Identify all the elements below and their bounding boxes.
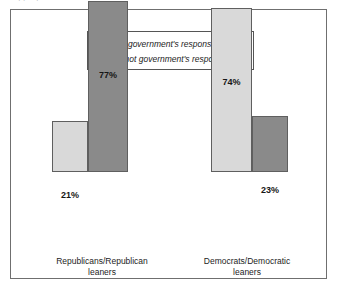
chart-figure: by party ID Yes, government's responsibi… — [0, 0, 338, 286]
bar-republicans-no — [88, 1, 128, 172]
bar-value-democrats-no: 23% — [252, 185, 288, 195]
clipped-caption-text: by party ID — [14, 0, 49, 1]
bar-value-republicans-yes: 21% — [52, 190, 88, 200]
bar-democrats-no — [252, 116, 288, 172]
bar-democrats-yes — [211, 8, 252, 172]
bar-value-republicans-no: 77% — [88, 70, 128, 80]
plot-area: 21% 77% 74% 23% — [18, 78, 320, 250]
bar-value-democrats-yes: 74% — [211, 77, 252, 87]
x-axis-label-democrats: Democrats/Democratic leaners — [174, 256, 320, 278]
bar-republicans-yes — [52, 121, 88, 172]
x-axis-label-republicans: Republicans/Republican leaners — [22, 256, 182, 278]
